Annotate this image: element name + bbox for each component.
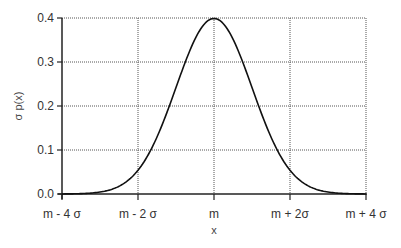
x-tick-label: m + 2σ [271, 207, 309, 221]
x-tick-label: m + 4 σ [345, 207, 387, 221]
grid-lines [62, 18, 366, 194]
y-tick-label: 0.1 [37, 143, 54, 157]
y-tick-labels: 0.00.10.20.30.4 [37, 11, 54, 201]
gaussian-chart: 0.00.10.20.30.4 m - 4 σm - 2 σmm + 2σm +… [0, 0, 401, 248]
y-axis-label: σ p(x) [12, 92, 24, 121]
y-tick-label: 0.3 [37, 55, 54, 69]
x-tick-label: m - 2 σ [119, 207, 158, 221]
y-tick-label: 0.4 [37, 11, 54, 25]
x-axis-label: x [211, 224, 217, 236]
x-tick-label: m [209, 207, 219, 221]
axes [57, 18, 367, 200]
y-tick-label: 0.2 [37, 99, 54, 113]
y-tick-label: 0.0 [37, 187, 54, 201]
x-tick-label: m - 4 σ [43, 207, 82, 221]
x-tick-labels: m - 4 σm - 2 σmm + 2σm + 4 σ [43, 207, 387, 221]
